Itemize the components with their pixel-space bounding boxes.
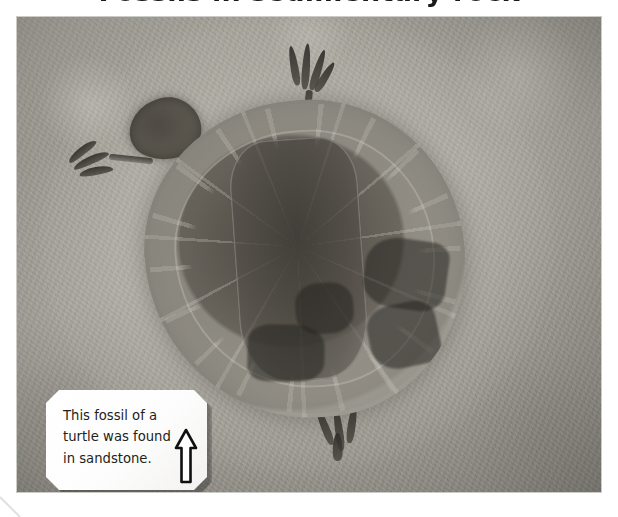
page-title: Fossils in sedimentary rock bbox=[0, 0, 618, 7]
callout-text: This fossil of a turtle was found in san… bbox=[63, 405, 183, 469]
arrow-up-icon bbox=[173, 428, 199, 486]
shell-fracture-patch bbox=[294, 281, 355, 336]
turtle-fossil bbox=[127, 72, 487, 442]
figure-page: Fossils in sedimentary rock bbox=[0, 0, 618, 517]
fossil-photo: This fossil of a turtle was found in san… bbox=[17, 17, 601, 492]
page-heading-clip: Fossils in sedimentary rock bbox=[0, 0, 618, 15]
callout-box: This fossil of a turtle was found in san… bbox=[46, 390, 207, 490]
turtle-carapace bbox=[134, 89, 475, 429]
corner-crop-mark-icon bbox=[0, 491, 26, 517]
